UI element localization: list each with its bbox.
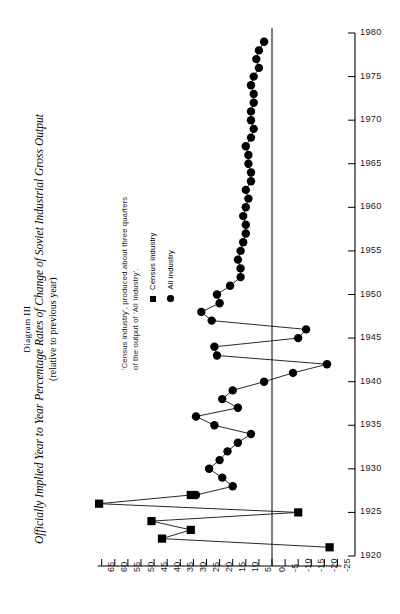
value-axis-tick-label: 15 xyxy=(237,561,247,572)
data-point-circle xyxy=(234,404,242,412)
value-axis-tick-label: 60 xyxy=(119,561,129,572)
chart-legend: Census industry All industry xyxy=(148,233,184,302)
circle-marker-icon xyxy=(167,296,174,303)
year-axis-tick-label: 1935 xyxy=(360,419,382,429)
value-axis-tick-label: 45 xyxy=(159,561,169,572)
value-axis-tick-label: 30 xyxy=(198,561,208,572)
data-point-circle xyxy=(247,107,255,115)
data-point-circle xyxy=(234,439,242,447)
year-axis-tick-label: 1975 xyxy=(360,71,382,81)
data-point-circle xyxy=(260,38,268,46)
data-point-circle xyxy=(210,343,218,351)
value-axis-tick-label: 0 xyxy=(277,567,287,572)
value-axis-tick-label: 25 xyxy=(211,561,221,572)
data-point-square xyxy=(95,500,103,508)
data-point-circle xyxy=(294,334,302,342)
chart-title-block: Diagram III Officially Implied Year to Y… xyxy=(22,114,58,544)
value-axis-tick-label: 20 xyxy=(224,561,234,572)
data-point-square xyxy=(294,508,302,516)
chart-page: Diagram III Officially Implied Year to Y… xyxy=(0,0,400,614)
data-point-circle xyxy=(213,351,221,359)
chart-plot xyxy=(0,0,400,614)
data-point-circle xyxy=(242,142,250,150)
data-point-circle xyxy=(247,177,255,185)
data-point-circle xyxy=(192,412,200,420)
data-point-circle xyxy=(250,72,258,80)
data-point-circle xyxy=(242,229,250,237)
data-point-circle xyxy=(244,194,252,202)
year-axis-tick-label: 1955 xyxy=(360,245,382,255)
data-point-circle xyxy=(215,456,223,464)
data-point-square xyxy=(158,535,166,543)
data-point-circle xyxy=(247,133,255,141)
data-point-circle xyxy=(234,255,242,263)
year-axis-tick-label: 1945 xyxy=(360,332,382,342)
value-axis-tick-label: 40 xyxy=(172,561,182,572)
value-axis-tick-label: 50 xyxy=(146,561,156,572)
legend-item-all-industry: All industry xyxy=(166,233,175,302)
data-point-circle xyxy=(250,125,258,133)
data-point-circle xyxy=(250,90,258,98)
data-point-circle xyxy=(302,325,310,333)
data-point-circle xyxy=(236,264,244,272)
value-axis-tick-label: -10 xyxy=(303,558,313,572)
data-point-circle xyxy=(247,430,255,438)
data-point-circle xyxy=(205,465,213,473)
data-point-circle xyxy=(239,238,247,246)
data-point-square xyxy=(187,526,195,534)
year-axis-tick-label: 1960 xyxy=(360,201,382,211)
data-point-circle xyxy=(213,290,221,298)
legend-label-all-industry: All industry xyxy=(166,250,175,290)
data-point-circle xyxy=(260,378,268,386)
data-point-circle xyxy=(239,212,247,220)
data-point-circle xyxy=(247,81,255,89)
data-point-circle xyxy=(226,282,234,290)
data-point-circle xyxy=(229,386,237,394)
data-point-circle xyxy=(252,55,260,63)
year-axis-tick-label: 1940 xyxy=(360,376,382,386)
data-point-circle xyxy=(242,203,250,211)
data-point-circle xyxy=(236,247,244,255)
legend-item-census-industry: Census industry xyxy=(148,233,157,302)
legend-label-census-industry: Census industry xyxy=(148,233,157,290)
data-point-circle xyxy=(218,395,226,403)
year-axis-tick-label: 1950 xyxy=(360,289,382,299)
data-point-circle xyxy=(255,46,263,54)
data-point-circle xyxy=(255,64,263,72)
value-axis-tick-label: -15 xyxy=(316,558,326,572)
footnote-block: 'Census industry', produced about three … xyxy=(120,197,141,370)
data-point-square xyxy=(326,543,334,551)
data-point-circle xyxy=(244,151,252,159)
footnote-line-2: of the output of 'All Industry'. xyxy=(131,197,142,370)
year-axis-tick-label: 1925 xyxy=(360,506,382,516)
year-axis-tick-label: 1965 xyxy=(360,158,382,168)
data-point-circle xyxy=(210,421,218,429)
data-point-circle xyxy=(250,99,258,107)
data-point-circle xyxy=(192,491,200,499)
value-axis-tick-label: 5 xyxy=(263,567,273,572)
data-point-circle xyxy=(242,186,250,194)
year-axis-tick-label: 1970 xyxy=(360,114,382,124)
data-point-circle xyxy=(244,160,252,168)
value-axis-tick-label: -20 xyxy=(329,558,339,572)
data-point-square xyxy=(147,517,155,525)
data-point-circle xyxy=(223,447,231,455)
footnote-line-1: 'Census industry', produced about three … xyxy=(120,197,131,370)
data-point-circle xyxy=(247,116,255,124)
chart-subtitle: (relative to previous year) xyxy=(47,114,58,544)
data-point-circle xyxy=(218,473,226,481)
data-point-circle xyxy=(247,168,255,176)
page-title: Officially Implied Year to Year Percenta… xyxy=(33,114,45,544)
year-axis-tick-label: 1930 xyxy=(360,463,382,473)
value-axis-tick-label: 10 xyxy=(250,561,260,572)
data-point-circle xyxy=(215,299,223,307)
year-axis-tick-label: 1980 xyxy=(360,27,382,37)
value-axis-tick-label: 35 xyxy=(185,561,195,572)
data-point-circle xyxy=(289,369,297,377)
square-marker-icon xyxy=(150,296,156,302)
series-line-census-industry xyxy=(99,495,330,547)
data-point-circle xyxy=(236,273,244,281)
data-point-circle xyxy=(229,482,237,490)
data-point-circle xyxy=(242,221,250,229)
data-point-circle xyxy=(208,316,216,324)
